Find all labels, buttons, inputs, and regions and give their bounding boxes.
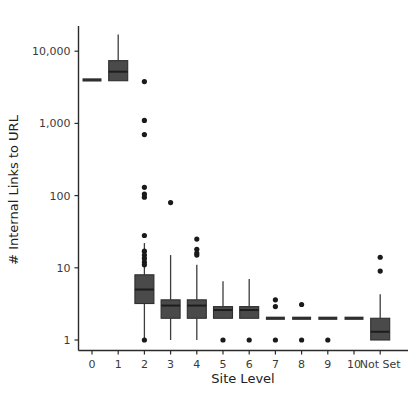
box-rect — [187, 300, 206, 318]
plot-canvas: 1101001,00010,000012345678910Not SetSite… — [0, 0, 417, 394]
x-tick-label: 1 — [115, 358, 122, 371]
outlier-point — [273, 297, 278, 302]
outlier-point — [194, 252, 199, 257]
y-tick-label: 1,000 — [39, 117, 71, 130]
outlier-point — [194, 236, 199, 241]
y-axis-title: # Internal Links to URL — [6, 114, 21, 265]
x-tick-label: Not Set — [360, 358, 402, 371]
outlier-point — [325, 337, 330, 342]
box-rect — [214, 307, 233, 319]
outlier-point — [299, 337, 304, 342]
outlier-point — [142, 118, 147, 123]
outlier-point — [378, 255, 383, 260]
x-tick-label: 5 — [220, 358, 227, 371]
outlier-point — [378, 269, 383, 274]
outlier-point — [142, 79, 147, 84]
outlier-point — [273, 304, 278, 309]
x-tick-label: 0 — [89, 358, 96, 371]
box-rect — [109, 61, 128, 81]
outlier-point — [273, 337, 278, 342]
outlier-point — [299, 302, 304, 307]
x-axis-title: Site Level — [211, 371, 274, 386]
y-tick-label: 10,000 — [32, 45, 71, 58]
box-rect — [240, 307, 259, 319]
x-tick-label: 4 — [193, 358, 200, 371]
x-tick-label: 8 — [298, 358, 305, 371]
outlier-point — [142, 195, 147, 200]
box-rect — [161, 300, 180, 318]
outlier-point — [142, 337, 147, 342]
box-rect — [371, 318, 390, 340]
x-tick-label: 6 — [246, 358, 253, 371]
outlier-point — [142, 262, 147, 267]
outlier-point — [142, 185, 147, 190]
x-tick-label: 9 — [324, 358, 331, 371]
y-tick-label: 100 — [50, 190, 71, 203]
x-tick-label: 2 — [141, 358, 148, 371]
outlier-point — [168, 200, 173, 205]
y-tick-label: 10 — [57, 262, 71, 275]
outlier-point — [142, 233, 147, 238]
outlier-point — [247, 337, 252, 342]
x-tick-label: 3 — [167, 358, 174, 371]
outlier-point — [220, 337, 225, 342]
boxplot-chart: 1101001,00010,000012345678910Not SetSite… — [0, 0, 417, 394]
y-tick-label: 1 — [64, 334, 71, 347]
x-tick-label: 7 — [272, 358, 279, 371]
outlier-point — [142, 132, 147, 137]
